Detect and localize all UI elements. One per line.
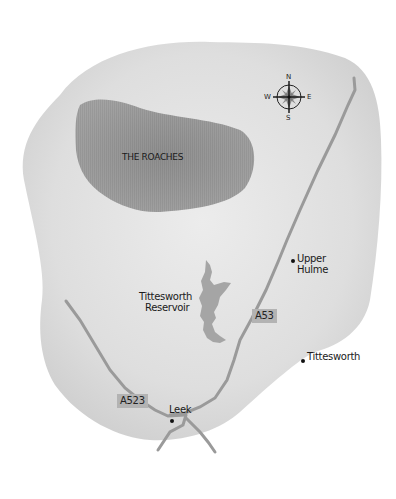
compass-north-label: N (286, 74, 291, 81)
place-marker-tittesworth (301, 359, 305, 363)
road-label-a53: A53 (252, 309, 277, 323)
reservoir-label-line1: Tittesworth (139, 291, 192, 302)
place-label-leek: Leek (169, 404, 191, 415)
road-label-a523: A523 (117, 394, 148, 408)
place-marker-upper-hulme (291, 259, 295, 263)
map-canvas (0, 0, 396, 499)
compass-east-label: E (307, 94, 311, 101)
compass-south-label: S (286, 115, 290, 122)
place-label-upper-hulme-line1: Upper (297, 253, 326, 264)
hills-label: THE ROACHES (122, 152, 183, 163)
place-marker-leek (170, 419, 174, 423)
land-area (23, 42, 382, 440)
compass-west-label: W (264, 94, 271, 101)
map: N E S W THE ROACHES Tittesworth Reservoi… (0, 0, 396, 499)
reservoir-label-line2: Reservoir (145, 302, 189, 313)
place-label-upper-hulme-line2: Hulme (297, 264, 328, 275)
place-label-tittesworth: Tittesworth (307, 351, 360, 362)
